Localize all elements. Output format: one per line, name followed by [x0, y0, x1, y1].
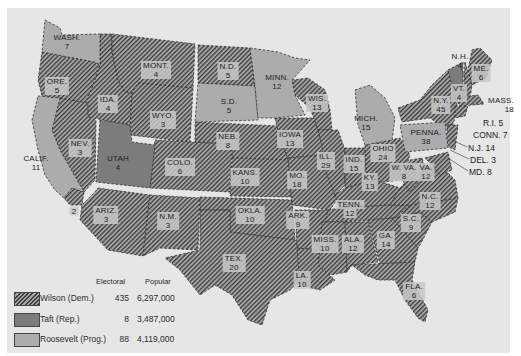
- callout-nh: N.H.4: [452, 52, 469, 70]
- callout-mass: MASS.18: [488, 96, 514, 114]
- label-ark: ARK.9: [286, 211, 309, 229]
- label-vt: VT.4: [451, 84, 467, 102]
- label-calif: CALIF.11: [23, 154, 48, 172]
- legend-row-taft: Taft (Rep.) 8 3,487,000: [12, 313, 202, 327]
- label-va: VA.12: [418, 163, 435, 181]
- label-ny: N.Y.45: [431, 96, 450, 114]
- label-ariz: ARIZ.3: [93, 206, 118, 224]
- label-ohio: OHIO24: [370, 144, 395, 162]
- callout-del: DEL. 3: [470, 155, 496, 165]
- legend-header-popular: Popular: [145, 277, 171, 286]
- label-mo: MO.18: [287, 171, 307, 189]
- label-wva: W. VA.8: [389, 163, 418, 181]
- label-okla: OKLA.10: [236, 206, 265, 224]
- legend-header-electoral: Electoral: [96, 277, 125, 286]
- label-neb: NEB.8: [216, 132, 239, 150]
- label-ind: IND.15: [344, 155, 365, 173]
- label-mich: MICH.15: [354, 114, 378, 132]
- label-mont: MONT.4: [141, 61, 171, 79]
- label-tex: TEX.20: [223, 254, 246, 272]
- label-wyo: WYO.3: [150, 111, 176, 129]
- label-la: LA.10: [294, 271, 311, 289]
- label-fla: FLA.6: [403, 282, 425, 300]
- label-iowa: IOWA13: [277, 130, 303, 148]
- label-kans: KANS.10: [230, 168, 259, 186]
- callout-ri: R.I. 5: [483, 118, 503, 128]
- callout-conn: CONN. 7: [473, 130, 507, 140]
- label-calif-split: 2: [70, 207, 79, 216]
- label-ga: GA.14: [377, 231, 395, 249]
- label-utah: UTAH4: [107, 154, 129, 172]
- label-nc: N.C.12: [420, 192, 441, 210]
- label-colo: COLO.6: [165, 158, 195, 176]
- roosevelt-swatch: [14, 333, 40, 347]
- label-ill: ILL.29: [317, 152, 335, 170]
- label-penna: PENNA.38: [411, 128, 442, 146]
- state-conn[interactable]: [455, 106, 468, 118]
- label-ala: ALA.12: [342, 235, 364, 253]
- label-ida: IDA.4: [98, 95, 118, 113]
- label-nev: NEV.3: [69, 139, 92, 157]
- label-sd: S.D.5: [221, 97, 237, 115]
- taft-swatch: [14, 313, 40, 327]
- legend: Electoral Popular Wilson (Dem.) 435 6,29…: [12, 270, 202, 350]
- label-wis: WIS.13: [306, 94, 328, 112]
- label-ky: KY.13: [362, 173, 378, 191]
- wilson-swatch: [14, 292, 40, 306]
- label-ore: ORE.5: [45, 77, 69, 95]
- label-tenn: TENN. 12: [336, 200, 365, 218]
- callout-nj: N.J. 14: [468, 143, 495, 153]
- legend-row-wilson: Wilson (Dem.) 435 6,297,000: [12, 292, 202, 306]
- label-minn: MINN.12: [265, 73, 289, 91]
- label-sc: S.C.9: [401, 214, 421, 232]
- legend-row-roosevelt: Roosevelt (Prog.) 88 4,119,000: [12, 333, 202, 347]
- label-me: ME.6: [472, 64, 491, 82]
- label-nd: N.D.5: [218, 62, 239, 80]
- label-miss: MISS.10: [312, 235, 339, 253]
- label-nm: N.M.3: [157, 212, 179, 230]
- callout-md: MD. 8: [469, 167, 492, 177]
- label-wash: WASH.7: [54, 33, 81, 51]
